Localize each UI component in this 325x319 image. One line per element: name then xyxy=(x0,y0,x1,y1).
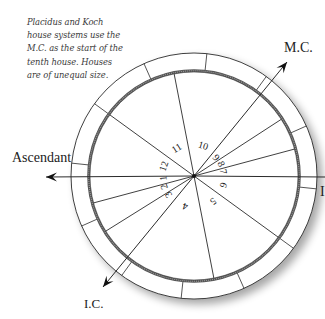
mc-label: M.C. xyxy=(284,40,313,56)
house-number-label: 1 xyxy=(157,175,168,181)
center-dot xyxy=(192,174,196,178)
descendant-label: I xyxy=(320,184,325,200)
ic-label: I.C. xyxy=(84,296,104,312)
ascendant-label: Ascendant xyxy=(12,150,71,166)
